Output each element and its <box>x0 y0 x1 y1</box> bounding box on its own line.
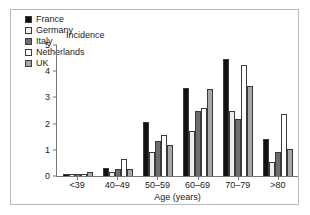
bar-group-3 <box>178 45 218 176</box>
bar-uk-5[interactable] <box>287 149 293 176</box>
legend-swatch-icon <box>25 16 32 23</box>
x-axis-tick-label: 70–79 <box>225 181 250 190</box>
bar-group-2 <box>138 45 178 176</box>
bar-group-0 <box>58 45 98 176</box>
bar-uk-2[interactable] <box>167 145 173 176</box>
y-axis-tick <box>53 71 57 72</box>
y-axis-tick-label: 2 <box>45 119 50 128</box>
y-axis-tick <box>53 97 57 98</box>
figure: Incidence FranceGermanyItalyNetherlandsU… <box>0 0 310 215</box>
y-axis-tick-label: 4 <box>45 67 50 76</box>
legend-swatch-icon <box>25 60 32 67</box>
y-axis-tick-label: 1 <box>45 145 50 154</box>
bar-groups <box>58 45 298 176</box>
y-axis-tick-label: 3 <box>45 93 50 102</box>
figure-frame: Incidence FranceGermanyItalyNetherlandsU… <box>10 9 299 205</box>
x-axis-tick-label: >80 <box>270 181 285 190</box>
y-axis-tick-label: 0 <box>45 172 50 181</box>
legend-item-label: France <box>36 15 64 24</box>
y-axis-tick <box>53 45 57 46</box>
bar-uk-1[interactable] <box>127 169 133 176</box>
plot-area: 012345 Age (years) <3940–4950–5960–6970–… <box>56 45 298 177</box>
legend-item-germany[interactable]: Germany <box>25 25 85 36</box>
bar-group-1 <box>98 45 138 176</box>
legend-swatch-icon <box>25 38 32 45</box>
legend-swatch-icon <box>25 27 32 34</box>
legend-item-france[interactable]: France <box>25 14 85 25</box>
bar-uk-0[interactable] <box>87 172 93 176</box>
x-axis-tick-label: <39 <box>69 181 84 190</box>
y-axis-tick <box>53 149 57 150</box>
bar-group-5 <box>258 45 298 176</box>
x-axis-tick-label: 50–59 <box>145 181 170 190</box>
y-axis-tick <box>53 176 57 177</box>
bar-uk-3[interactable] <box>207 89 213 176</box>
legend-swatch-icon <box>25 49 32 56</box>
x-axis-tick-label: 40–49 <box>105 181 130 190</box>
y-axis-tick-label: 5 <box>45 41 50 50</box>
bar-uk-4[interactable] <box>247 86 253 176</box>
bar-group-4 <box>218 45 258 176</box>
x-axis-tick-label: 60–69 <box>185 181 210 190</box>
x-axis-title: Age (years) <box>57 193 298 202</box>
y-axis-tick <box>53 123 57 124</box>
legend-item-label: Germany <box>36 26 73 35</box>
